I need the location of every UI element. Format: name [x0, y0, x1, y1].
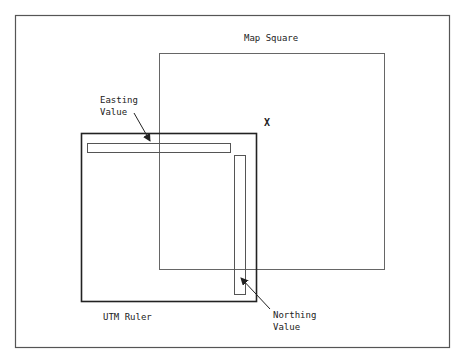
easting-label-line2: Value	[100, 107, 127, 117]
northing-scale	[235, 156, 246, 295]
utm-diagram: Map Square X UTM Ruler Easting Value Nor…	[0, 0, 463, 363]
map-square	[160, 54, 385, 270]
northing-label-line1: Northing	[273, 310, 316, 320]
map-square-label: Map Square	[244, 33, 298, 43]
utm-ruler-label: UTM Ruler	[103, 312, 152, 322]
easting-label-line1: Easting	[100, 95, 138, 105]
target-mark: X	[264, 117, 270, 128]
easting-arrow	[134, 113, 150, 141]
utm-ruler	[82, 134, 257, 302]
northing-label-line2: Value	[273, 322, 300, 332]
